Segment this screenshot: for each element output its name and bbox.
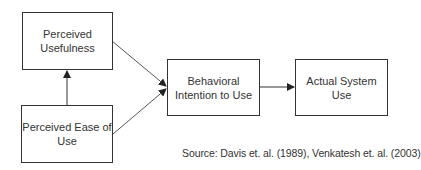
node-label-line: Use <box>22 134 111 148</box>
node-label-line: Behavioral <box>175 74 252 88</box>
node-label-line: Perceived <box>40 27 94 41</box>
node-label-line: Actual System <box>306 74 376 88</box>
node-behavioral-intention: Behavioral Intention to Use <box>167 59 260 116</box>
node-label-line: Perceived Ease of <box>22 120 111 134</box>
node-label-line: Intention to Use <box>175 88 252 102</box>
node-label-line: Use <box>306 88 376 102</box>
node-perceived-usefulness: Perceived Usefulness <box>22 12 113 70</box>
node-label-line: Usefulness <box>40 41 94 55</box>
node-actual-system-use: Actual System Use <box>295 59 388 116</box>
edge-ease-to-intention <box>113 89 166 134</box>
edge-usefulness-to-intention <box>112 41 166 86</box>
source-citation: Source: Davis et. al. (1989), Venkatesh … <box>182 147 421 159</box>
node-perceived-ease-of-use: Perceived Ease of Use <box>21 105 113 163</box>
